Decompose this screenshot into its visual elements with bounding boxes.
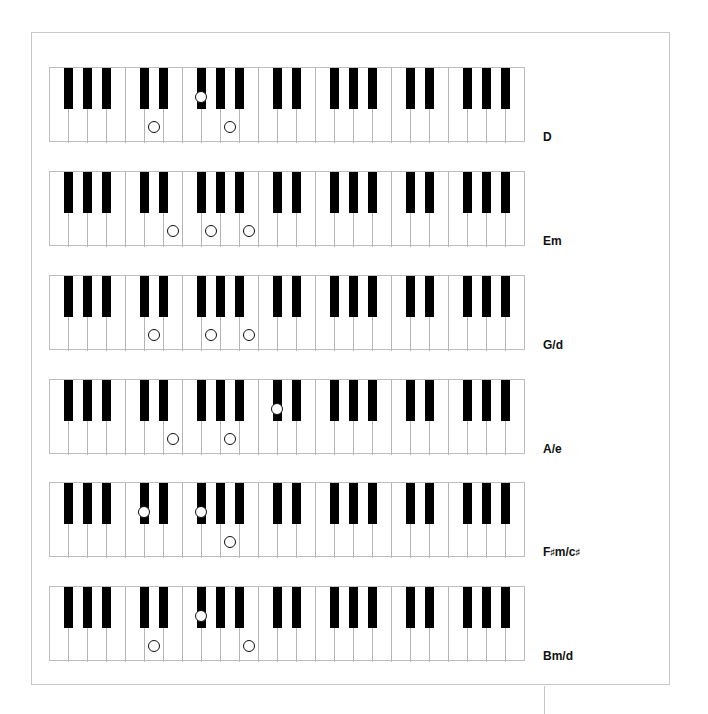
black-key <box>482 68 491 109</box>
black-key <box>83 587 92 628</box>
note-marker-white <box>243 329 255 341</box>
chord-label: D <box>543 130 552 144</box>
black-key <box>482 587 491 628</box>
black-key <box>159 380 168 421</box>
black-key <box>102 68 111 109</box>
note-marker-black <box>138 506 150 518</box>
black-key <box>349 587 358 628</box>
chord-keyboard <box>49 586 525 661</box>
black-key <box>83 276 92 317</box>
note-marker-white <box>224 536 236 548</box>
black-key <box>330 483 339 524</box>
black-key <box>406 172 415 213</box>
black-key <box>159 587 168 628</box>
note-marker-white <box>167 225 179 237</box>
black-key <box>292 68 301 109</box>
black-key <box>292 483 301 524</box>
black-key <box>64 172 73 213</box>
black-key <box>235 68 244 109</box>
black-key <box>349 68 358 109</box>
black-key <box>330 276 339 317</box>
sharp-sign: ♯ <box>550 547 555 557</box>
note-marker-black <box>271 403 283 415</box>
black-key <box>140 172 149 213</box>
black-key <box>273 483 282 524</box>
black-key <box>197 380 206 421</box>
piano-keyboard <box>49 67 525 142</box>
black-key <box>482 483 491 524</box>
black-key <box>273 276 282 317</box>
chord-keyboard <box>49 67 525 142</box>
black-key <box>501 483 510 524</box>
black-key <box>330 380 339 421</box>
black-key <box>406 587 415 628</box>
black-key <box>140 68 149 109</box>
black-key <box>349 483 358 524</box>
black-key <box>368 172 377 213</box>
black-key <box>330 68 339 109</box>
black-key <box>501 68 510 109</box>
black-key <box>83 380 92 421</box>
black-key <box>349 276 358 317</box>
black-key <box>273 172 282 213</box>
black-key <box>216 276 225 317</box>
note-marker-white <box>224 121 236 133</box>
black-key <box>140 587 149 628</box>
note-marker-white <box>148 640 160 652</box>
black-key <box>349 172 358 213</box>
chord-keyboard <box>49 275 525 350</box>
black-key <box>216 483 225 524</box>
frame-tail-line <box>544 686 545 714</box>
black-key <box>406 380 415 421</box>
piano-keyboard <box>49 482 525 557</box>
black-key <box>425 68 434 109</box>
note-marker-white <box>148 121 160 133</box>
black-key <box>216 587 225 628</box>
black-key <box>482 276 491 317</box>
chord-label: G/d <box>543 338 563 352</box>
black-key <box>102 587 111 628</box>
black-key <box>216 380 225 421</box>
black-key <box>197 276 206 317</box>
black-key <box>83 68 92 109</box>
piano-keyboard <box>49 171 525 246</box>
black-key <box>102 172 111 213</box>
black-key <box>292 276 301 317</box>
note-marker-white <box>243 640 255 652</box>
black-key <box>330 587 339 628</box>
note-marker-white <box>205 225 217 237</box>
black-key <box>368 587 377 628</box>
black-key <box>64 68 73 109</box>
black-key <box>273 68 282 109</box>
black-key <box>83 172 92 213</box>
black-key <box>425 276 434 317</box>
black-key <box>330 172 339 213</box>
note-marker-white <box>205 329 217 341</box>
black-key <box>425 587 434 628</box>
black-key <box>64 276 73 317</box>
black-key <box>425 172 434 213</box>
black-key <box>292 172 301 213</box>
black-key <box>102 276 111 317</box>
black-key <box>64 587 73 628</box>
black-key <box>216 68 225 109</box>
chord-label: F♯m/c♯ <box>543 545 580 559</box>
note-marker-black <box>195 91 207 103</box>
black-key <box>235 380 244 421</box>
note-marker-black <box>195 610 207 622</box>
black-key <box>159 276 168 317</box>
black-key <box>463 172 472 213</box>
black-key <box>197 172 206 213</box>
piano-keyboard <box>49 379 525 454</box>
black-key <box>64 380 73 421</box>
black-key <box>292 587 301 628</box>
black-key <box>235 276 244 317</box>
note-marker-black <box>195 506 207 518</box>
black-key <box>102 483 111 524</box>
black-key <box>501 172 510 213</box>
black-key <box>368 68 377 109</box>
sharp-sign: ♯ <box>576 547 581 557</box>
black-key <box>368 276 377 317</box>
black-key <box>216 172 225 213</box>
note-marker-white <box>224 433 236 445</box>
